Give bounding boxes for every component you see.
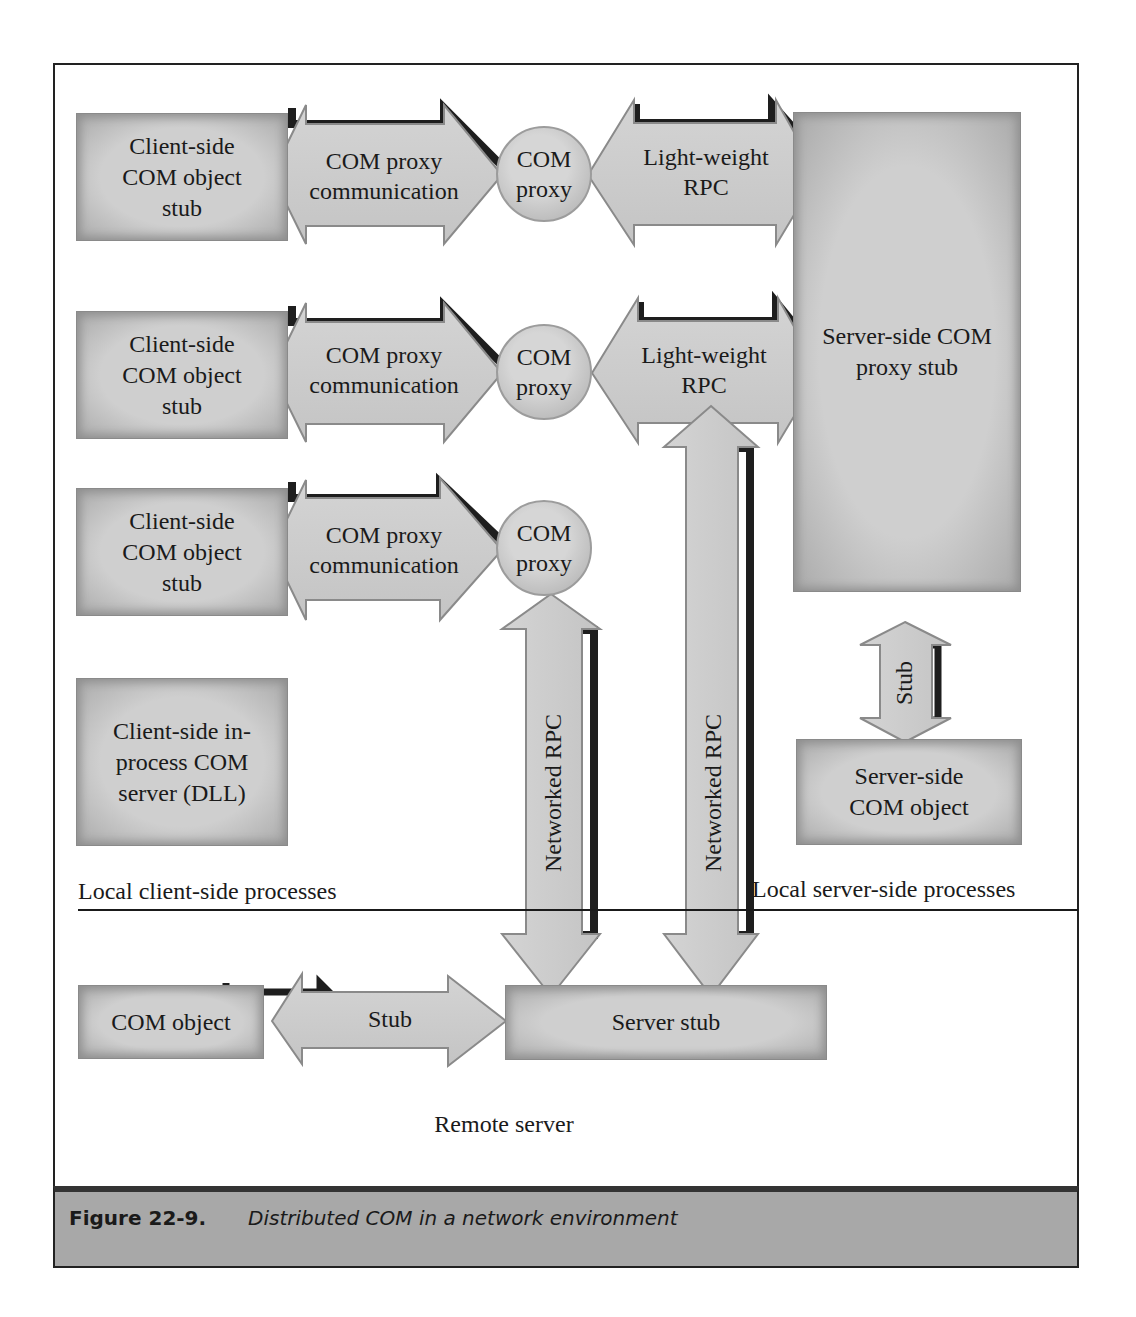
box-label: Server stub <box>612 1007 721 1038</box>
box-label: Client-side in-process COM server (DLL) <box>112 716 252 809</box>
server-stub-box: Server stub <box>505 985 827 1060</box>
light-weight-rpc-label-2: Light-weight RPC <box>624 340 784 400</box>
box-label: Client-side COM object stub <box>107 329 257 422</box>
com-proxy-communication-label-2: COM proxy communication <box>294 340 474 400</box>
client-side-com-object-stub-box-2: Client-side COM object stub <box>76 311 288 439</box>
remote-server-label: Remote server <box>404 1109 604 1139</box>
client-side-in-process-com-server-box: Client-side in-process COM server (DLL) <box>76 678 288 846</box>
remote-stub-arrow-label: Stub <box>330 1004 450 1034</box>
light-weight-rpc-label-1: Light-weight RPC <box>626 142 786 202</box>
proxy-label: COM proxy <box>514 518 574 578</box>
proxy-label: COM proxy <box>514 144 574 204</box>
box-label: Client-side COM object stub <box>107 131 257 224</box>
region-divider-left <box>78 909 1078 911</box>
client-side-com-object-stub-box-3: Client-side COM object stub <box>76 488 288 616</box>
com-proxy-circle-2: COM proxy <box>496 324 592 420</box>
figure-number: Figure 22-9. <box>69 1206 206 1230</box>
figure-caption: Distributed COM in a network environment <box>248 1206 677 1230</box>
proxy-label: COM proxy <box>514 342 574 402</box>
server-side-com-object-box: Server-side COM object <box>796 739 1022 845</box>
networked-rpc-label-left: Networked RPC <box>540 708 570 878</box>
client-side-com-object-stub-box-1: Client-side COM object stub <box>76 113 288 241</box>
local-client-side-processes-label: Local client-side processes <box>78 876 337 906</box>
networked-rpc-arrow-right <box>664 406 758 996</box>
box-label: Client-side COM object stub <box>107 506 257 599</box>
server-side-com-proxy-stub-box: Server-side COM proxy stub <box>793 112 1021 592</box>
figure-caption-bar: Figure 22-9. Distributed COM in a networ… <box>53 1186 1079 1268</box>
box-label: Server-side COM proxy stub <box>807 321 1007 383</box>
com-proxy-circle-3: COM proxy <box>496 500 592 596</box>
local-server-side-processes-label: Local server-side processes <box>752 874 1015 904</box>
networked-rpc-label-right: Networked RPC <box>700 708 730 878</box>
box-label: Server-side COM object <box>834 761 984 823</box>
com-proxy-communication-label-1: COM proxy communication <box>294 146 474 206</box>
com-proxy-circle-1: COM proxy <box>496 126 592 222</box>
remote-com-object-box: COM object <box>78 985 264 1059</box>
box-label: COM object <box>111 1007 230 1038</box>
com-proxy-communication-label-3: COM proxy communication <box>294 520 474 580</box>
server-stub-arrow-label: Stub <box>891 653 921 713</box>
